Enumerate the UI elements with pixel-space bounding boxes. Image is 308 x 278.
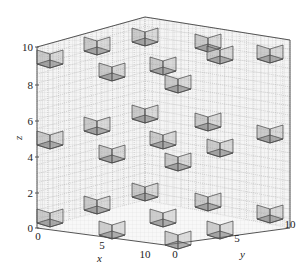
x-tick-label: 0 (35, 230, 41, 242)
chart-3d-lattice: 108642005100510 x y z (0, 0, 308, 278)
z-tick-label: 8 (28, 79, 34, 91)
y-tick-label: 5 (234, 232, 240, 244)
z-tick-label: 6 (28, 115, 34, 127)
x-tick-label: 10 (140, 248, 152, 260)
z-tick-label: 2 (28, 187, 34, 199)
x-tick-label: 5 (99, 239, 105, 251)
x-axis-label: x (96, 252, 102, 264)
y-tick-label: 10 (285, 218, 297, 230)
y-tick-label: 0 (172, 248, 178, 260)
y-axis-label: y (239, 248, 245, 260)
z-axis-label: z (12, 135, 24, 141)
z-tick-label: 10 (22, 41, 34, 53)
z-tick-label: 4 (28, 151, 34, 163)
z-tick-label: 0 (28, 222, 34, 234)
